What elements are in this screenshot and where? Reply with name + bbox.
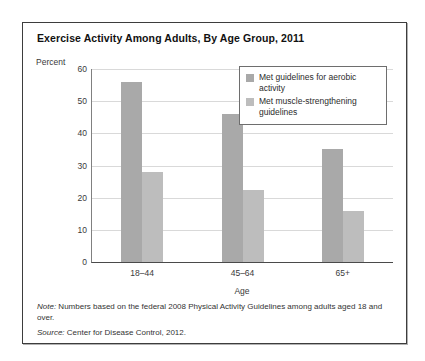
y-tick-label: 0: [82, 257, 87, 267]
source-text: Center for Disease Control, 2012.: [65, 328, 186, 337]
bar-muscle: [142, 172, 163, 262]
y-tick-label: 50: [78, 96, 87, 106]
note-prefix: Note:: [37, 302, 56, 311]
bar-group: 18–44: [121, 69, 163, 262]
y-tick-label: 20: [78, 193, 87, 203]
y-tick-label: 40: [78, 128, 87, 138]
bar-aerobic: [222, 114, 243, 262]
y-tick-label: 10: [78, 225, 87, 235]
legend-swatch-icon-muscle: [246, 98, 254, 106]
x-tick-label: 18–44: [121, 268, 163, 278]
source-line: Source: Center for Disease Control, 2012…: [37, 327, 395, 338]
legend-label-muscle: Met muscle-strengthening guidelines: [259, 96, 380, 118]
x-tick-label: 65+: [322, 268, 364, 278]
y-axis-title: Percent: [36, 57, 65, 67]
figure-frame: Exercise Activity Among Adults, By Age G…: [22, 22, 407, 344]
legend-item-aerobic: Met guidelines for aerobic activity: [246, 72, 380, 94]
note-line: Note: Numbers based on the federal 2008 …: [37, 301, 395, 323]
x-tick-label: 45–64: [222, 268, 264, 278]
bar-muscle: [243, 190, 264, 262]
y-tick-label: 30: [78, 161, 87, 171]
chart-title: Exercise Activity Among Adults, By Age G…: [37, 32, 304, 44]
y-tick-label: 60: [78, 64, 87, 74]
chart-legend: Met guidelines for aerobic activity Met …: [239, 66, 387, 125]
note-text: Numbers based on the federal 2008 Physic…: [37, 302, 382, 322]
bar-muscle: [343, 211, 364, 262]
footnotes: Note: Numbers based on the federal 2008 …: [37, 301, 395, 338]
legend-swatch-icon-aerobic: [246, 74, 254, 82]
legend-label-aerobic: Met guidelines for aerobic activity: [259, 72, 380, 94]
bar-aerobic: [322, 149, 343, 262]
source-prefix: Source:: [37, 328, 65, 337]
bar-aerobic: [121, 82, 142, 262]
x-axis-title: Age: [91, 286, 393, 296]
legend-item-muscle: Met muscle-strengthening guidelines: [246, 96, 380, 118]
